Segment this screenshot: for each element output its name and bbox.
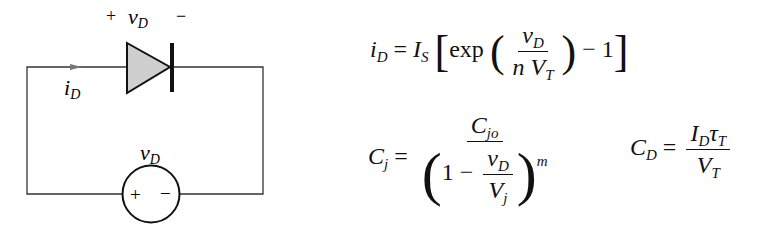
diode-current-equation: iD = IS [exp ( vD n VT ) − 1] bbox=[370, 22, 628, 81]
current-label: iD bbox=[64, 75, 80, 102]
fraction: vD n VT bbox=[509, 22, 558, 81]
diffusion-capacitance-equation: CD = IDτT VT bbox=[630, 120, 734, 179]
junction-capacitance-equation: Cj = Cjo (1 − vD Vj )m bbox=[368, 112, 556, 204]
current-arrow-icon bbox=[70, 64, 82, 70]
source-minus-label: − bbox=[160, 183, 171, 204]
fraction: IDτT VT bbox=[686, 120, 730, 179]
source-plus-label: + bbox=[130, 184, 141, 205]
diode-circuit: + vD − iD vD + − bbox=[0, 0, 300, 229]
diode-voltage-label: vD bbox=[128, 4, 148, 31]
diode-symbol bbox=[127, 43, 172, 93]
diode-minus-label: − bbox=[176, 6, 186, 26]
fraction: Cjo (1 − vD Vj )m bbox=[418, 112, 552, 204]
diode-plus-label: + bbox=[106, 6, 116, 26]
source-voltage-label: vD bbox=[140, 140, 160, 167]
